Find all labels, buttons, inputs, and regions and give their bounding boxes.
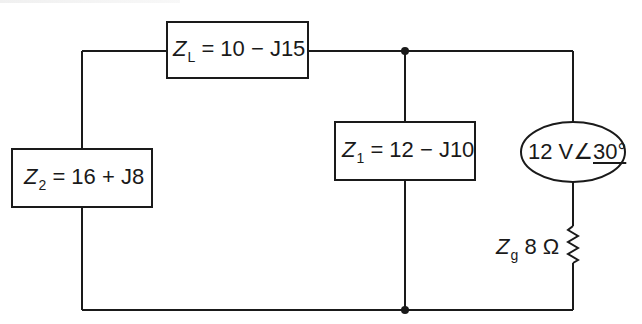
source-angle: 30° [593,139,626,164]
node-dot-top [401,47,409,55]
source-label: 12 V∠30° [528,141,626,163]
zl-expression: = 10 − J15 [201,36,305,61]
z1-subscript: 1 [356,150,364,166]
zg-subscript: g [510,247,518,263]
zg-label: Zg 8 Ω [496,236,559,258]
zl-symbol: Z [173,36,186,61]
z2-expression: = 16 + J8 [52,164,144,189]
source-magnitude: 12 V [528,139,573,164]
z2-symbol: Z [24,164,37,189]
angle-symbol-icon: ∠ [573,139,593,164]
z1-expression: = 12 − J10 [370,137,474,162]
z2-label: Z2 = 16 + J8 [24,166,144,188]
node-dot-bottom [401,306,409,314]
z1-label: Z1 = 12 − J10 [342,139,474,161]
z1-symbol: Z [342,137,355,162]
resistor-zg [568,226,578,263]
z2-subscript: 2 [38,177,46,193]
zg-value: 8 Ω [524,234,559,259]
zl-label: ZL = 10 − J15 [173,38,305,60]
zl-subscript: L [187,49,195,65]
zg-symbol: Z [496,234,509,259]
